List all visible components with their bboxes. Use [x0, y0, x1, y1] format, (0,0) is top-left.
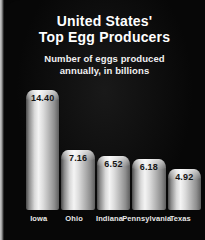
bar: 4.92 [168, 169, 201, 210]
bar-slot: 6.18 [132, 90, 165, 210]
chart-subtitle: Number of eggs produced annually, in bil… [4, 53, 205, 77]
egg-producers-infographic: United States' Top Egg Producers Number … [0, 0, 205, 240]
bar-slot: 14.40 [26, 90, 59, 210]
bar: 7.16 [61, 150, 94, 210]
subtitle-line-2: annually, in billions [4, 65, 205, 77]
bar-slot: 6.52 [97, 90, 130, 210]
bar-value-label: 6.18 [132, 162, 165, 172]
bar: 6.18 [132, 159, 165, 211]
bar: 6.52 [97, 156, 130, 210]
title-line-1: United States' [4, 13, 205, 29]
chart-card: United States' Top Egg Producers Number … [4, 0, 205, 240]
left-edge-strip [0, 0, 4, 240]
bar-slot: 4.92 [168, 90, 201, 210]
category-label: Texas [158, 214, 203, 223]
bar-value-label: 6.52 [97, 159, 130, 169]
bar-chart-plot: 14.407.166.526.184.92 [26, 90, 201, 210]
subtitle-line-1: Number of eggs produced [4, 53, 205, 65]
bar-value-label: 4.92 [168, 172, 201, 182]
bar: 14.40 [26, 90, 59, 210]
page-title: United States' Top Egg Producers [4, 13, 205, 45]
bar-value-label: 14.40 [26, 93, 59, 103]
title-line-2: Top Egg Producers [4, 29, 205, 45]
bar-slot: 7.16 [61, 90, 94, 210]
bar-value-label: 7.16 [61, 153, 94, 163]
